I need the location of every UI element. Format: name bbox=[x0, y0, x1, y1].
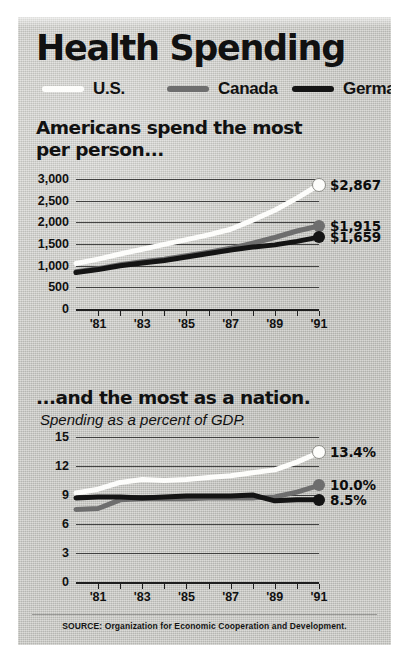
x-axis-label: '85 bbox=[178, 590, 195, 604]
endpoint-label-de: $1,659 bbox=[330, 229, 381, 245]
y-axis-label: 2,500 bbox=[38, 194, 69, 208]
x-axis-tick bbox=[186, 311, 187, 316]
y-axis-label: 0 bbox=[62, 575, 69, 589]
legend-label-germany: Germany bbox=[343, 79, 391, 99]
y-axis-label: 1,000 bbox=[38, 259, 69, 273]
x-axis-label: '87 bbox=[222, 317, 239, 331]
x-axis-tick bbox=[275, 311, 276, 316]
legend-label-canada: Canada bbox=[218, 79, 278, 99]
x-axis-label: '91 bbox=[311, 590, 328, 604]
x-axis-tick bbox=[120, 584, 121, 589]
endpoint-dot-de bbox=[313, 231, 325, 243]
line-us bbox=[76, 452, 319, 493]
x-axis-tick bbox=[231, 311, 232, 316]
x-axis-label: '81 bbox=[90, 590, 107, 604]
y-axis-label: 3 bbox=[62, 546, 69, 560]
x-axis-label: '85 bbox=[178, 317, 195, 331]
legend-item-us: U.S. bbox=[42, 79, 125, 99]
y-axis-label: 3,000 bbox=[38, 172, 69, 186]
endpoint-dot-de bbox=[313, 494, 325, 506]
x-axis-tick bbox=[98, 584, 99, 589]
x-axis-tick bbox=[120, 311, 121, 316]
paper-texture-top bbox=[18, 17, 391, 27]
y-axis-label: 0 bbox=[62, 302, 69, 316]
endpoint-label-us: 13.4% bbox=[330, 444, 376, 460]
chart-subtitle-1: Spending as a percent of GDP. bbox=[40, 411, 246, 428]
series-lines bbox=[76, 179, 323, 309]
y-axis-label: 6 bbox=[62, 517, 69, 531]
endpoint-dot-us bbox=[312, 178, 326, 192]
x-axis-tick bbox=[98, 311, 99, 316]
x-axis-tick bbox=[164, 311, 165, 316]
x-axis-label: '81 bbox=[90, 317, 107, 331]
x-axis-tick bbox=[275, 584, 276, 589]
plot-area-0: 05001,0001,5002,0002,5003,000'81'83'85'8… bbox=[76, 179, 319, 309]
legend-item-germany: Germany bbox=[292, 79, 391, 99]
x-axis-label: '91 bbox=[311, 317, 328, 331]
x-axis-tick bbox=[253, 311, 254, 316]
legend-swatch-canada bbox=[167, 86, 209, 92]
x-axis-tick bbox=[231, 584, 232, 589]
y-axis-label: 2,000 bbox=[38, 215, 69, 229]
chart-title-1: ...and the most as a nation. bbox=[36, 387, 310, 409]
x-axis-tick bbox=[297, 584, 298, 589]
series-lines bbox=[76, 437, 323, 582]
legend-swatch-germany bbox=[292, 86, 334, 92]
source-divider bbox=[32, 614, 377, 615]
endpoint-label-de: 8.5% bbox=[330, 492, 367, 508]
page-title: Health Spending bbox=[36, 31, 345, 66]
y-axis-label: 500 bbox=[48, 280, 69, 294]
x-axis-label: '89 bbox=[266, 317, 283, 331]
y-axis-label: 12 bbox=[55, 459, 69, 473]
x-axis-label: '89 bbox=[266, 590, 283, 604]
chart-legend: U.S. Canada Germany bbox=[42, 79, 382, 99]
infographic-panel: Health Spending U.S. Canada Germany Amer… bbox=[18, 17, 391, 645]
x-axis-tick bbox=[319, 584, 320, 589]
chart-title-0: Americans spend the most per person... bbox=[36, 117, 302, 161]
x-axis-tick bbox=[142, 311, 143, 316]
x-axis-tick bbox=[209, 311, 210, 316]
x-axis-tick bbox=[186, 584, 187, 589]
plot-area-1: 03691215'81'83'85'87'89'91 bbox=[76, 437, 319, 582]
endpoint-dot-ca bbox=[313, 479, 325, 491]
x-axis-tick bbox=[142, 584, 143, 589]
y-axis-label: 1,500 bbox=[38, 237, 69, 251]
legend-swatch-us bbox=[42, 86, 84, 92]
y-axis-label: 9 bbox=[62, 488, 69, 502]
x-axis-label: '83 bbox=[134, 590, 151, 604]
x-axis-tick bbox=[319, 311, 320, 316]
endpoint-label-us: $2,867 bbox=[330, 177, 381, 193]
x-axis-tick bbox=[209, 584, 210, 589]
legend-label-us: U.S. bbox=[93, 79, 125, 99]
endpoint-dot-us bbox=[312, 445, 326, 459]
x-axis-label: '83 bbox=[134, 317, 151, 331]
legend-item-canada: Canada bbox=[167, 79, 278, 99]
x-axis-line bbox=[76, 582, 319, 584]
x-axis-line bbox=[76, 309, 319, 311]
x-axis-tick bbox=[253, 584, 254, 589]
x-axis-tick bbox=[297, 311, 298, 316]
x-axis-label: '87 bbox=[222, 590, 239, 604]
x-axis-tick bbox=[164, 584, 165, 589]
source-note: SOURCE: Organization for Economic Cooper… bbox=[18, 621, 391, 631]
y-axis-label: 15 bbox=[55, 430, 69, 444]
